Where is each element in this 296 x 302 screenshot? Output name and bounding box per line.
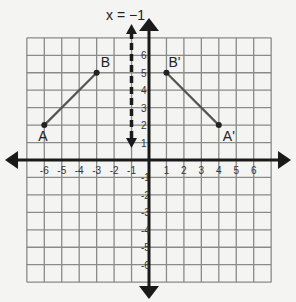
x-tick-label: -6 xyxy=(40,165,49,176)
point-B xyxy=(94,70,100,76)
y-tick-label: -6 xyxy=(141,260,150,271)
y-tick-label: 5 xyxy=(141,68,147,79)
y-tick-label: -3 xyxy=(141,207,150,218)
x-tick-label: 2 xyxy=(181,165,187,176)
x-tick-label: -2 xyxy=(110,165,119,176)
y-tick-label: 2 xyxy=(141,120,147,131)
reflection-line-top-arrow-icon xyxy=(126,24,137,34)
y-tick-label: 1 xyxy=(141,138,147,149)
x-tick-label: -4 xyxy=(75,165,84,176)
x-tick-label: 1 xyxy=(164,165,170,176)
point-label: A' xyxy=(223,128,235,144)
point-label: A xyxy=(38,128,48,144)
point-label: B xyxy=(101,54,110,70)
point-B-prime xyxy=(163,70,169,76)
point-label: B' xyxy=(168,54,180,70)
y-tick-label: 4 xyxy=(141,85,147,96)
x-tick-label: -5 xyxy=(57,165,66,176)
segment-BpAp xyxy=(166,73,218,125)
axes xyxy=(5,18,291,299)
x-tick-label: 3 xyxy=(199,165,205,176)
points: ABB'A' xyxy=(38,54,235,144)
reflection-line-label: x = −1 xyxy=(106,7,145,23)
coordinate-plane: x = −1 -6-5-4-3-2-1123456654321-1-2-3-4-… xyxy=(0,0,296,302)
y-tick-label: -4 xyxy=(141,225,150,236)
point-A-prime xyxy=(216,122,222,128)
segment-AB xyxy=(44,73,96,125)
y-tick-label: -2 xyxy=(141,190,150,201)
y-tick-label: 6 xyxy=(141,50,147,61)
x-tick-label: 4 xyxy=(216,165,222,176)
x-tick-label: 6 xyxy=(251,165,257,176)
x-tick-label: 5 xyxy=(233,165,239,176)
y-axis-bottom-arrow-icon xyxy=(139,286,159,299)
y-tick-label: 3 xyxy=(141,103,147,114)
y-tick-label: -1 xyxy=(141,172,150,183)
y-tick-label: -5 xyxy=(141,242,150,253)
reflection-line: x = −1 xyxy=(106,7,145,148)
x-axis-left-arrow-icon xyxy=(5,151,18,169)
x-tick-label: -3 xyxy=(92,165,101,176)
x-axis-right-arrow-icon xyxy=(278,151,291,169)
x-tick-label: -1 xyxy=(127,165,136,176)
